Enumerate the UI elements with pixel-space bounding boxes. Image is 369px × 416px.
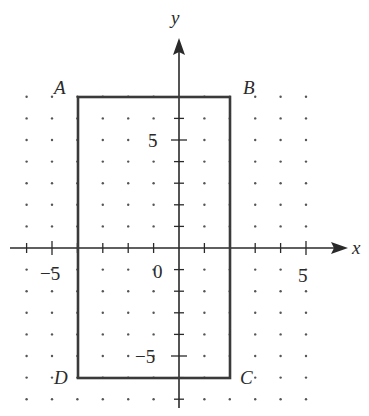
grid-dot	[102, 333, 104, 335]
grid-dot	[203, 312, 205, 314]
grid-dot	[25, 225, 27, 227]
grid-dot	[127, 312, 129, 314]
grid-dot	[102, 225, 104, 227]
grid-dot	[25, 333, 27, 335]
grid-dot	[279, 268, 281, 270]
y-axis-label: y	[169, 7, 180, 28]
grid-dot	[254, 139, 256, 141]
grid-dot	[305, 204, 307, 206]
grid-dot	[152, 182, 154, 184]
grid-dot	[279, 312, 281, 314]
grid-dot	[254, 117, 256, 119]
grid-dot	[25, 204, 27, 206]
grid-dot	[203, 182, 205, 184]
vertex-label-c: C	[240, 367, 253, 388]
grid-dot	[203, 117, 205, 119]
grid-dot	[25, 96, 27, 98]
grid-dot	[102, 182, 104, 184]
coordinate-diagram: x y −5 0 5 5 −5 A B C D	[0, 0, 369, 416]
grid-dot	[51, 398, 53, 400]
grid-dot	[203, 204, 205, 206]
grid-dot	[51, 117, 53, 119]
grid-dot	[254, 355, 256, 357]
grid-dot	[279, 160, 281, 162]
grid-dot	[254, 268, 256, 270]
grid-dot	[51, 160, 53, 162]
grid-dot	[203, 355, 205, 357]
grid-dot	[203, 398, 205, 400]
grid-dot	[305, 355, 307, 357]
grid-dot	[305, 160, 307, 162]
grid-dot	[279, 117, 281, 119]
grid-dot	[76, 398, 78, 400]
x-tick-label-0: 0	[153, 261, 163, 282]
grid-dot	[254, 398, 256, 400]
grid-dot	[102, 139, 104, 141]
grid-dot	[279, 355, 281, 357]
grid-dot	[51, 312, 53, 314]
x-axis-label: x	[351, 237, 361, 258]
grid-dot	[127, 333, 129, 335]
vertex-label-a: A	[52, 77, 66, 98]
x-tick-label-5: 5	[298, 265, 308, 286]
grid-dot	[305, 96, 307, 98]
grid-dot	[279, 376, 281, 378]
grid-dot	[127, 139, 129, 141]
grid-dot	[203, 160, 205, 162]
grid-dot	[25, 139, 27, 141]
grid-dot	[127, 355, 129, 357]
grid-dot	[152, 160, 154, 162]
grid-dot	[51, 182, 53, 184]
grid-dot	[102, 117, 104, 119]
grid-dot	[152, 333, 154, 335]
grid-dot	[254, 333, 256, 335]
grid-dot	[127, 160, 129, 162]
grid-dot	[203, 333, 205, 335]
grid-dot	[279, 290, 281, 292]
grid-dot	[102, 398, 104, 400]
grid-dot	[203, 139, 205, 141]
grid-dot	[254, 182, 256, 184]
grid-dot	[152, 204, 154, 206]
grid-dot	[229, 398, 231, 400]
grid-dot	[102, 355, 104, 357]
grid-dot	[152, 225, 154, 227]
grid-dot	[152, 398, 154, 400]
grid-dot	[51, 333, 53, 335]
grid-dot	[305, 312, 307, 314]
grid-dot	[51, 204, 53, 206]
grid-dot	[279, 398, 281, 400]
grid-dot	[51, 376, 53, 378]
grid-dot	[51, 139, 53, 141]
grid-dot	[279, 182, 281, 184]
grid-dot	[279, 96, 281, 98]
grid-dot	[25, 160, 27, 162]
grid-dot	[254, 160, 256, 162]
grid-dot	[254, 376, 256, 378]
grid-dot	[25, 268, 27, 270]
grid-dot	[203, 290, 205, 292]
grid-dot	[25, 355, 27, 357]
grid-dot	[25, 290, 27, 292]
grid-dot	[102, 160, 104, 162]
grid-dot	[305, 398, 307, 400]
grid-dot	[102, 268, 104, 270]
grid-dot	[254, 204, 256, 206]
vertex-label-b: B	[243, 77, 255, 98]
grid-dot	[305, 225, 307, 227]
grid-dot	[102, 204, 104, 206]
grid-dot	[51, 225, 53, 227]
grid-dot	[25, 182, 27, 184]
grid-dot	[279, 139, 281, 141]
grid-dot	[305, 290, 307, 292]
grid-dot	[127, 398, 129, 400]
grid-dot	[279, 204, 281, 206]
grid-dot	[127, 290, 129, 292]
grid-dot	[127, 117, 129, 119]
grid-dot	[102, 290, 104, 292]
grid-dot	[254, 312, 256, 314]
grid-dot	[279, 333, 281, 335]
grid-dot	[305, 333, 307, 335]
y-tick-label-5: 5	[148, 130, 158, 151]
grid-dot	[254, 290, 256, 292]
